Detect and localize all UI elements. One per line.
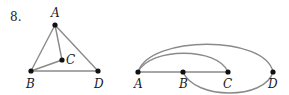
label-b: B — [178, 77, 188, 91]
graph-right: A B C D — [133, 44, 278, 93]
vertex-b — [180, 69, 185, 74]
vertex-c — [59, 57, 64, 62]
graph-left: A B C D — [25, 6, 104, 91]
label-d: D — [267, 77, 278, 91]
vertex-a — [135, 69, 140, 74]
vertex-d — [95, 68, 100, 73]
figure: 8. A B C D A B C D — [0, 0, 289, 95]
label-a: A — [50, 6, 60, 20]
vertex-a — [52, 22, 57, 27]
edge-a-d-arc — [138, 44, 273, 72]
edge-a-c — [55, 25, 62, 60]
label-c: C — [66, 53, 75, 67]
label-c: C — [223, 77, 232, 91]
label-b: B — [25, 77, 35, 91]
vertex-d — [270, 69, 275, 74]
edge-a-d — [55, 25, 98, 71]
vertex-c — [225, 69, 230, 74]
label-a: A — [133, 77, 143, 91]
label-d: D — [93, 77, 104, 91]
problem-number: 8. — [10, 10, 21, 24]
vertex-b — [28, 68, 33, 73]
